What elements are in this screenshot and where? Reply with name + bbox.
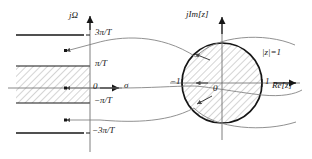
z-plane-origin-label: 0 (213, 84, 218, 93)
s-plane-to-z-plane-mapping-figure: jΩ 3π/T π/T 0 −π/T −3π/T σ jIm[z] −1 0 1… (0, 0, 312, 159)
z-plane-re-axis-label: Re[z] (272, 81, 292, 90)
s-plane-origin-label: 0 (93, 82, 98, 91)
s-plane-primary-strip (16, 66, 90, 103)
mapping-curve-upper (66, 37, 295, 57)
z-plane-imaginary-axis-label: jIm[z] (186, 10, 209, 19)
s-plane-tick-label-minus-3pi-over-T: −3π/T (92, 126, 115, 135)
z-plane-unit-circle-label: |z|=1 (262, 48, 281, 57)
z-plane-tick-label-one: 1 (265, 77, 270, 86)
s-plane-tick-label-3pi-over-T: 3π/T (95, 28, 112, 37)
s-plane-jomega-axis-label: jΩ (69, 11, 78, 20)
s-plane-tick-label-pi-over-T: π/T (95, 59, 107, 68)
s-plane-sigma-axis-label: σ (124, 81, 128, 90)
s-plane-tick-label-minus-pi-over-T: −π/T (94, 96, 112, 105)
z-plane-tick-label-minus-one: −1 (170, 77, 181, 86)
